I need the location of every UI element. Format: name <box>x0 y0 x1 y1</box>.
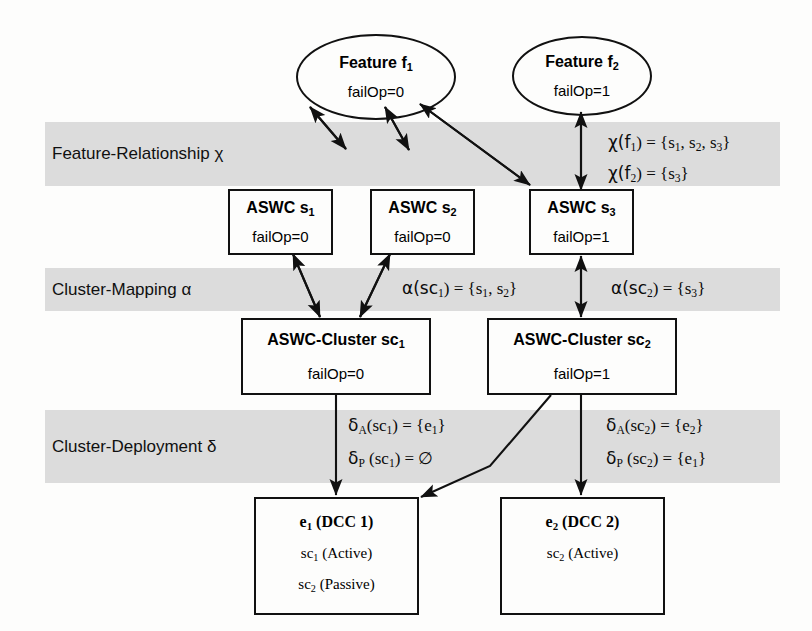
ecu-line-e2-1: sc2 (Active) <box>547 545 618 563</box>
annotation-chi-f2: χ(f2) = {s3} <box>608 163 689 185</box>
feature-attr-f1: failOp=0 <box>348 83 404 100</box>
aswc-node-s3[interactable]: ASWC s3 failOp=1 <box>529 189 634 255</box>
annotation-delta-P-sc2: δP (sc2) = {e1} <box>606 448 706 470</box>
cluster-node-sc2[interactable]: ASWC-Cluster sc2 failOp=1 <box>487 318 677 395</box>
feature-attr-f2: failOp=1 <box>554 82 610 99</box>
feature-title-f1: Feature f1 <box>339 54 413 73</box>
annotation-delta-P-sc1: δP (sc1) = ∅ <box>348 448 433 470</box>
aswc-attr-s3: failOp=1 <box>553 228 609 245</box>
band-label-cluster-mapping: Cluster-Mapping α <box>52 280 191 300</box>
feature-title-f2: Feature f2 <box>545 53 619 72</box>
aswc-attr-s2: failOp=0 <box>394 228 450 245</box>
ecu-line-e1-2: sc2 (Passive) <box>298 576 374 594</box>
feature-node-f1[interactable]: Feature f1 failOp=0 <box>296 34 456 120</box>
aswc-attr-s1: failOp=0 <box>252 228 308 245</box>
aswc-node-s1[interactable]: ASWC s1 failOp=0 <box>228 189 333 255</box>
ecu-node-e1[interactable]: e1 (DCC 1) sc1 (Active) sc2 (Passive) <box>254 497 419 615</box>
cluster-attr-sc1: failOp=0 <box>308 365 364 382</box>
cluster-attr-sc2: failOp=1 <box>554 365 610 382</box>
annotation-alpha-sc2: α(sc2) = {s3} <box>611 278 705 300</box>
aswc-title-s2: ASWC s2 <box>388 199 456 218</box>
aswc-node-s2[interactable]: ASWC s2 failOp=0 <box>370 189 475 255</box>
annotation-chi-f1: χ(f1) = {s1, s2, s3} <box>608 132 731 154</box>
ecu-title-e2: e2 (DCC 2) <box>546 513 620 532</box>
band-label-cluster-deployment: Cluster-Deployment δ <box>52 437 216 457</box>
ecu-line-e1-1: sc1 (Active) <box>301 545 372 563</box>
cluster-node-sc1[interactable]: ASWC-Cluster sc1 failOp=0 <box>241 318 431 395</box>
diagram-canvas: Feature-Relationship χ Cluster-Mapping α… <box>0 0 812 631</box>
ecu-title-e1: e1 (DCC 1) <box>300 513 374 532</box>
feature-node-f2[interactable]: Feature f2 failOp=1 <box>512 36 652 116</box>
annotation-alpha-sc1: α(sc1) = {s1, s2} <box>402 278 517 300</box>
ecu-node-e2[interactable]: e2 (DCC 2) sc2 (Active) <box>500 497 665 615</box>
aswc-title-s1: ASWC s1 <box>246 199 314 218</box>
annotation-delta-A-sc1: δA(sc1) = {e1} <box>348 415 446 437</box>
aswc-title-s3: ASWC s3 <box>547 199 615 218</box>
cluster-title-sc1: ASWC-Cluster sc1 <box>267 331 405 350</box>
cluster-title-sc2: ASWC-Cluster sc2 <box>513 331 651 350</box>
band-label-feature-relationship: Feature-Relationship χ <box>52 144 223 164</box>
annotation-delta-A-sc2: δA(sc2) = {e2} <box>606 415 704 437</box>
